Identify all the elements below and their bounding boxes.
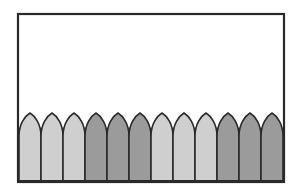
fence-picket-light: [195, 113, 217, 181]
illustration-canvas: [0, 0, 295, 194]
fence-picket-light: [19, 113, 41, 181]
fence-picket-dark: [107, 113, 129, 181]
fence-picket-light: [63, 113, 85, 181]
fence-picket-dark: [261, 113, 283, 181]
picket-fence-illustration: [0, 0, 295, 194]
fence-picket-light: [151, 113, 173, 181]
fence-picket-light: [173, 113, 195, 181]
fence-picket-dark: [85, 113, 107, 181]
fence-picket-dark: [239, 113, 261, 181]
fence-picket-dark: [129, 113, 151, 181]
fence-picket-dark: [217, 113, 239, 181]
fence-picket-light: [41, 113, 63, 181]
